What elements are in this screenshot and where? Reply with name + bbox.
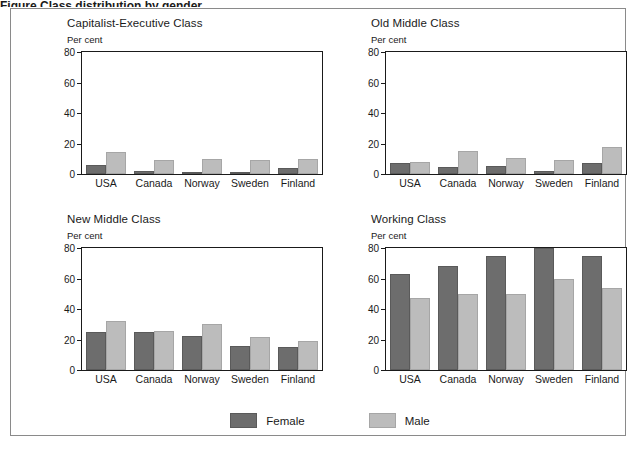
legend-label: Female (266, 415, 304, 427)
bar-male (250, 160, 270, 174)
bar-female (278, 168, 298, 174)
bar-female (182, 336, 202, 370)
bar-group: USA (390, 52, 431, 174)
x-axis-tick-label: USA (95, 373, 117, 385)
bar-group: Finland (582, 52, 623, 174)
y-axis-tick (381, 174, 386, 175)
y-axis-tick-label: 60 (64, 77, 75, 88)
y-axis-tick-label: 20 (64, 334, 75, 345)
bar-female (278, 347, 298, 370)
legend-label: Male (405, 415, 430, 427)
x-axis-tick-label: Finland (585, 373, 619, 385)
bar-groups: USACanadaNorwaySwedenFinland (386, 248, 626, 370)
y-axis-tick-label: 40 (368, 304, 379, 315)
x-axis-tick-label: USA (399, 177, 421, 189)
bar-male (506, 158, 526, 174)
y-axis-tick-label: 60 (64, 273, 75, 284)
y-axis-tick-label: 0 (69, 169, 75, 180)
bar-group: Canada (134, 248, 175, 370)
figure-caption: Figure Class distribution by gender (0, 0, 638, 7)
bar-male (106, 152, 126, 174)
bar-female (438, 167, 458, 174)
bar-female (438, 266, 458, 370)
legend-item-female: Female (230, 413, 304, 428)
figure-frame: Capitalist-Executive Class Per cent 0204… (10, 8, 626, 436)
bar-male (506, 294, 526, 370)
bar-male (554, 160, 574, 174)
bar-group: USA (390, 248, 431, 370)
bar-male (106, 321, 126, 370)
bar-female (534, 248, 554, 370)
y-axis-tick-label: 60 (368, 77, 379, 88)
chart-title: Working Class (371, 213, 446, 225)
y-axis-tick (77, 174, 82, 175)
y-axis-tick-label: 20 (368, 334, 379, 345)
chart-title: Old Middle Class (371, 17, 460, 29)
bar-group: Sweden (230, 52, 271, 174)
bar-female (486, 256, 506, 370)
bar-male (458, 151, 478, 174)
y-axis-tick-label: 0 (373, 365, 379, 376)
bar-group: Canada (438, 248, 479, 370)
x-axis-tick-label: Sweden (535, 373, 573, 385)
x-axis-tick-label: Finland (281, 373, 315, 385)
y-axis-tick-label: 0 (69, 365, 75, 376)
bar-group: Norway (182, 52, 223, 174)
chart-title: Capitalist-Executive Class (67, 17, 203, 29)
chart-title: New Middle Class (67, 213, 161, 225)
bar-female (582, 256, 602, 370)
bar-female (486, 166, 506, 174)
bar-group: Finland (278, 248, 319, 370)
bar-group: USA (86, 52, 127, 174)
chart-panel-old-middle-class: Old Middle Class Per cent 020406080USACa… (341, 17, 638, 205)
bar-male (458, 294, 478, 370)
bar-group: Sweden (230, 248, 271, 370)
bar-female (182, 172, 202, 174)
bar-female (534, 171, 554, 174)
bar-female (230, 346, 250, 370)
x-axis-tick-label: USA (95, 177, 117, 189)
x-axis-tick-label: Sweden (231, 177, 269, 189)
chart-panel-working-class: Working Class Per cent 020406080USACanad… (341, 213, 638, 401)
bar-group: Canada (438, 52, 479, 174)
bar-group: Finland (278, 52, 319, 174)
x-axis-tick-label: Norway (488, 373, 524, 385)
bar-female (390, 274, 410, 370)
y-axis-label: Per cent (67, 34, 102, 45)
bar-female (230, 172, 250, 174)
plot-area: 020406080USACanadaNorwaySwedenFinland (81, 247, 323, 371)
y-axis-tick-label: 60 (368, 273, 379, 284)
y-axis-label: Per cent (371, 34, 406, 45)
legend-swatch-female-icon (230, 413, 257, 428)
bar-group: Finland (582, 248, 623, 370)
bar-group: Canada (134, 52, 175, 174)
x-axis-tick-label: Sweden (535, 177, 573, 189)
bar-group: Sweden (534, 248, 575, 370)
y-axis-label: Per cent (371, 230, 406, 241)
bar-group: Sweden (534, 52, 575, 174)
y-axis-tick-label: 20 (64, 138, 75, 149)
bar-groups: USACanadaNorwaySwedenFinland (82, 248, 322, 370)
bar-group: USA (86, 248, 127, 370)
bar-male (154, 331, 174, 370)
bar-male (298, 159, 318, 174)
chart-legend: Female Male (11, 413, 638, 428)
y-axis-tick-label: 40 (64, 304, 75, 315)
y-axis-label: Per cent (67, 230, 102, 241)
x-axis-tick-label: Canada (440, 373, 477, 385)
bar-group: Norway (486, 52, 527, 174)
bar-male (202, 159, 222, 174)
y-axis-tick-label: 80 (64, 47, 75, 58)
x-axis-tick-label: USA (399, 373, 421, 385)
y-axis-tick-label: 80 (368, 243, 379, 254)
bar-female (86, 332, 106, 370)
bar-group: Norway (486, 248, 527, 370)
bar-male (410, 162, 430, 174)
bar-groups: USACanadaNorwaySwedenFinland (386, 52, 626, 174)
plot-area: 020406080USACanadaNorwaySwedenFinland (81, 51, 323, 175)
bar-female (134, 332, 154, 370)
y-axis-tick (381, 370, 386, 371)
bar-male (602, 288, 622, 370)
x-axis-tick-label: Canada (440, 177, 477, 189)
chart-panel-capitalist-executive-class: Capitalist-Executive Class Per cent 0204… (37, 17, 337, 205)
